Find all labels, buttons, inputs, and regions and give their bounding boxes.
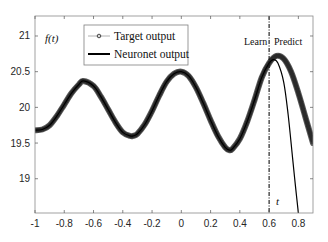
y-axis-label: f(t) [45, 32, 59, 45]
y-tick-label: 19 [19, 173, 31, 184]
legend: Target output Neuronet output [84, 25, 190, 65]
x-tick-label: 0.4 [233, 218, 247, 229]
x-tick-label: -0.8 [56, 218, 74, 229]
x-tick-label: -0.4 [114, 218, 132, 229]
x-tick-label: 0.6 [262, 218, 276, 229]
y-tick-label: 20.5 [11, 66, 31, 77]
legend-target-label: Target output [114, 30, 176, 43]
y-tick-label: 21 [19, 30, 31, 41]
x-tick-label: 0.2 [204, 218, 218, 229]
line-chart: -1-0.8-0.6-0.4-0.200.20.40.60.81919.5202… [0, 0, 328, 242]
y-tick-label: 19.5 [11, 138, 31, 149]
x-tick-label: 0.8 [291, 218, 305, 229]
learn-annotation: Learn [244, 36, 267, 47]
x-tick-label: -0.6 [85, 218, 103, 229]
x-tick-label: -1 [31, 218, 40, 229]
predict-annotation: Predict [274, 36, 303, 47]
x-tick-label: -0.2 [143, 218, 161, 229]
y-tick-label: 20 [19, 102, 31, 113]
legend-neuronet-label: Neuronet output [114, 48, 190, 61]
x-tick-label: 0 [179, 218, 185, 229]
